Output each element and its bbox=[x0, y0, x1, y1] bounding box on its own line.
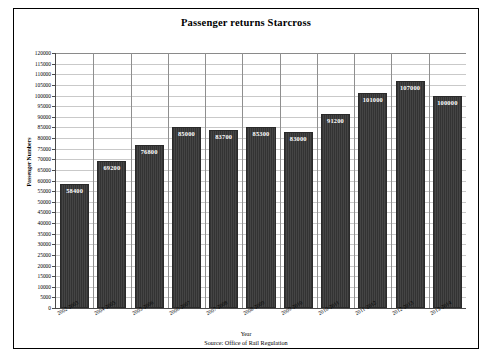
category-separator bbox=[93, 53, 94, 308]
source-note: Source: Office of Rail Regulation bbox=[14, 339, 478, 346]
gridline bbox=[56, 74, 466, 75]
y-tick-label: 5000 bbox=[40, 294, 51, 300]
bar[interactable]: 107000 bbox=[396, 81, 425, 308]
y-tick-label: 25000 bbox=[38, 252, 51, 258]
y-tick-label: 60000 bbox=[38, 178, 51, 184]
y-tick-label: 55000 bbox=[38, 188, 51, 194]
category-separator bbox=[354, 53, 355, 308]
y-tick-label: 70000 bbox=[38, 156, 51, 162]
bar-value-label: 69200 bbox=[103, 164, 120, 171]
bar-value-label: 83700 bbox=[215, 133, 232, 140]
bar[interactable]: 91200 bbox=[321, 114, 350, 308]
y-tick-label: 35000 bbox=[38, 231, 51, 237]
bar[interactable]: 85300 bbox=[246, 127, 275, 308]
bar-value-label: 107000 bbox=[400, 84, 420, 91]
bar[interactable]: 83000 bbox=[284, 132, 313, 308]
y-tick-label: 110000 bbox=[35, 71, 51, 77]
y-tick-label: 90000 bbox=[38, 114, 51, 120]
bar[interactable]: 100000 bbox=[433, 96, 462, 309]
y-tick-label: 45000 bbox=[38, 209, 51, 215]
bar-value-label: 101000 bbox=[363, 96, 383, 103]
category-separator bbox=[131, 53, 132, 308]
y-tick-label: 30000 bbox=[38, 241, 51, 247]
chart-frame: Passenger returns Starcross Passenger Nu… bbox=[13, 8, 479, 349]
bar-value-label: 91200 bbox=[327, 117, 344, 124]
category-separator bbox=[317, 53, 318, 308]
category-separator bbox=[205, 53, 206, 308]
plot-area: 5840069200768008500083700853008300091200… bbox=[55, 53, 466, 309]
y-tick-label: 10000 bbox=[38, 284, 51, 290]
y-tick-label: 75000 bbox=[38, 146, 51, 152]
chart-title: Passenger returns Starcross bbox=[14, 17, 478, 28]
bar[interactable]: 69200 bbox=[97, 161, 126, 308]
bar[interactable]: 83700 bbox=[209, 130, 238, 308]
y-tick-label: 95000 bbox=[38, 103, 51, 109]
bar-value-label: 76800 bbox=[141, 148, 158, 155]
y-tick-label: 115000 bbox=[35, 61, 51, 67]
y-tick-label: 80000 bbox=[38, 135, 51, 141]
bar[interactable]: 101000 bbox=[358, 93, 387, 308]
y-tick-label: 15000 bbox=[38, 273, 51, 279]
bar[interactable]: 85000 bbox=[172, 127, 201, 308]
gridline bbox=[56, 53, 466, 54]
y-tick-label: 105000 bbox=[35, 82, 51, 88]
category-separator bbox=[242, 53, 243, 308]
bar-value-label: 85300 bbox=[252, 130, 269, 137]
bar-value-label: 85000 bbox=[178, 130, 195, 137]
category-separator bbox=[391, 53, 392, 308]
y-axis-tick-labels: 1200001150001100001050001000009500090000… bbox=[14, 53, 55, 309]
y-tick-label: 85000 bbox=[38, 124, 51, 130]
bar-value-label: 58400 bbox=[66, 187, 83, 194]
category-separator bbox=[280, 53, 281, 308]
bar[interactable]: 58400 bbox=[60, 184, 89, 308]
bar-value-label: 100000 bbox=[437, 99, 457, 106]
y-tick-label: 65000 bbox=[38, 167, 51, 173]
category-separator bbox=[429, 53, 430, 308]
y-tick-label: 0 bbox=[48, 305, 51, 311]
y-tick-label: 40000 bbox=[38, 220, 51, 226]
bar[interactable]: 76800 bbox=[135, 145, 164, 308]
gridline bbox=[56, 64, 466, 65]
category-separator bbox=[168, 53, 169, 308]
y-tick-label: 20000 bbox=[38, 263, 51, 269]
x-axis-title: Year bbox=[14, 331, 478, 337]
y-tick-label: 50000 bbox=[38, 199, 51, 205]
bar-value-label: 83000 bbox=[290, 135, 307, 142]
y-tick-label: 100000 bbox=[35, 93, 51, 99]
y-tick-label: 120000 bbox=[35, 50, 51, 56]
